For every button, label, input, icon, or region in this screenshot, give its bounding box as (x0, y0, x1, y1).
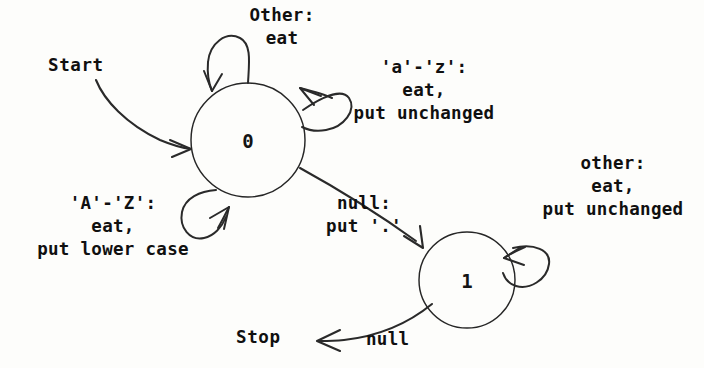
transition-label-loop-1-other: other: eat, put unchanged (522, 152, 704, 221)
state-node-0: 0 (191, 83, 305, 197)
state-0-label: 0 (242, 130, 253, 152)
transition-label-edge-0-to-1: null: put '.' (296, 192, 432, 238)
self-loop-1-upper-right (503, 246, 549, 286)
transition-label-loop-0-upper: 'A'-'Z': eat, put lower case (0, 192, 226, 261)
state-1-label: 1 (461, 270, 472, 292)
start-arrow-head (170, 140, 191, 157)
transition-label-loop-0-lower: 'a'-'z': eat, put unchanged (316, 56, 532, 125)
self-loop-0-top-head (204, 71, 222, 91)
start-label: Start (48, 54, 144, 77)
stop-label: Stop (236, 326, 322, 349)
start-arrow-path (96, 80, 191, 149)
transition-label-edge-1-to-stop: null (366, 328, 438, 351)
state-diagram: 0 1 (0, 0, 704, 368)
state-node-1: 1 (419, 232, 515, 328)
transition-label-loop-0-other: Other: eat (216, 4, 348, 50)
self-loop-1-upper-right-path (503, 246, 549, 286)
start-arrow (96, 80, 191, 157)
